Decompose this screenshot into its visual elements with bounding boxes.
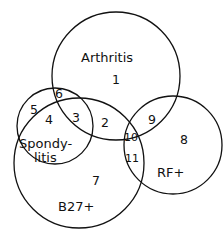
region-11: 11 (125, 152, 139, 165)
venn-diagram: Arthritis Spondy- litis B27+ RF+ 1 2 3 4… (0, 0, 224, 244)
spondylitis-label-line2: litis (34, 150, 57, 165)
region-3: 3 (72, 110, 80, 125)
region-9: 9 (148, 112, 156, 127)
rf-label: RF+ (157, 165, 184, 180)
region-10: 10 (124, 131, 138, 144)
region-1: 1 (112, 72, 120, 87)
spondylitis-label-line1: Spondy- (19, 136, 72, 151)
b27-label: B27+ (58, 199, 94, 214)
region-7: 7 (92, 173, 100, 188)
region-8: 8 (180, 132, 188, 147)
arthritis-label: Arthritis (81, 50, 133, 65)
region-5: 5 (30, 102, 38, 117)
region-6: 6 (55, 86, 63, 101)
region-2: 2 (101, 115, 109, 130)
region-4: 4 (45, 112, 53, 127)
